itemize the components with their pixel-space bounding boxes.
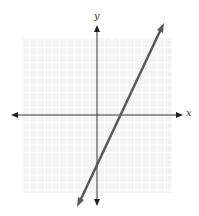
y-axis-up-arrow-icon bbox=[94, 25, 100, 32]
line-top-arrow-icon bbox=[157, 23, 164, 33]
x-axis-right-arrow-icon bbox=[176, 112, 183, 118]
x-axis-left-arrow-icon bbox=[11, 112, 18, 118]
y-axis-label: y bbox=[94, 10, 100, 21]
x-axis-label: x bbox=[186, 107, 192, 118]
coordinate-plane bbox=[0, 0, 199, 216]
y-axis-down-arrow-icon bbox=[94, 199, 100, 206]
line-bottom-arrow-icon bbox=[77, 197, 84, 207]
